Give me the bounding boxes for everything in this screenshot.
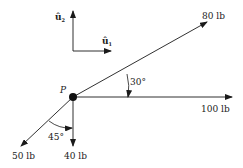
point-p-label: P bbox=[59, 85, 67, 95]
force-40-label: 40 lb bbox=[64, 151, 87, 161]
angle-45-label: 45° bbox=[48, 132, 64, 142]
u2-label: û2 bbox=[55, 12, 66, 23]
u1-label: û1 bbox=[102, 36, 112, 47]
force-50-label: 50 lb bbox=[12, 151, 35, 161]
point-p bbox=[69, 93, 77, 101]
force-100-label: 100 lb bbox=[201, 104, 230, 114]
basis-vectors: û2 û1 bbox=[55, 11, 112, 51]
angle-arc-45 bbox=[49, 121, 72, 128]
force-diagram: û2 û1 P 30° 45° 80 lb 100 lb 40 lb 50 lb bbox=[0, 0, 243, 168]
angle-30-label: 30° bbox=[130, 77, 146, 87]
force-80-label: 80 lb bbox=[202, 11, 225, 21]
forces bbox=[21, 22, 232, 146]
force-50-arrow bbox=[21, 97, 73, 146]
angle-arc-30 bbox=[127, 74, 129, 97]
